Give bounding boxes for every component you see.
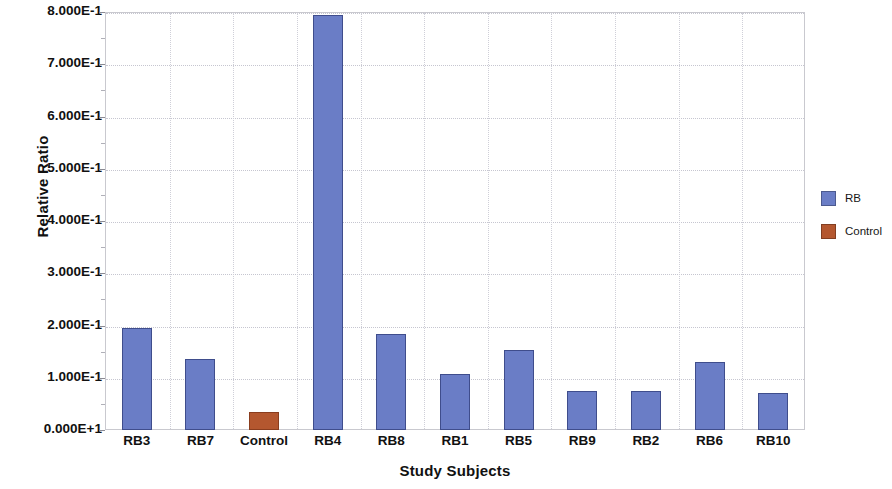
y-axis-minor-tick-mark <box>101 404 105 405</box>
gridline-vertical <box>361 13 362 429</box>
gridline-horizontal <box>106 274 804 275</box>
plot-area <box>105 12 805 430</box>
x-axis-tick-label: RB8 <box>360 433 424 448</box>
y-axis-tick-label: 2.000E-1 <box>14 317 102 332</box>
y-axis-tick-mark <box>99 12 105 13</box>
x-axis-tick-label: RB10 <box>741 433 805 448</box>
y-axis-tick-label: 3.000E-1 <box>14 264 102 279</box>
legend: RBControl <box>821 190 891 256</box>
legend-swatch-icon <box>821 224 836 239</box>
y-axis-tick-label: 8.000E-1 <box>14 3 102 18</box>
legend-swatch-icon <box>821 191 836 206</box>
gridline-vertical <box>424 13 425 429</box>
y-axis-tick-mark <box>99 273 105 274</box>
gridline-vertical <box>233 13 234 429</box>
y-axis-tick-label: 7.000E-1 <box>14 55 102 70</box>
x-axis-tick-labels: RB3RB7ControlRB4RB8RB1RB5RB9RB2RB6RB10 <box>105 433 805 455</box>
gridline-horizontal <box>106 379 804 380</box>
y-axis-minor-tick-mark <box>101 90 105 91</box>
x-axis-tick-label: RB4 <box>296 433 360 448</box>
y-axis-tick-mark <box>99 430 105 431</box>
x-axis-tick-label: RB3 <box>105 433 169 448</box>
y-axis-tick-labels: 0.000E+11.000E-12.000E-13.000E-14.000E-1… <box>14 0 102 489</box>
x-axis-tick-label: RB1 <box>423 433 487 448</box>
y-axis-tick-mark <box>99 378 105 379</box>
y-axis-minor-tick-mark <box>101 143 105 144</box>
legend-item[interactable]: RB <box>821 190 891 206</box>
y-axis-minor-tick-mark <box>101 247 105 248</box>
x-axis-title: Study Subjects <box>105 462 805 479</box>
y-axis-minor-tick-mark <box>101 299 105 300</box>
x-axis-tick-label: RB2 <box>614 433 678 448</box>
y-axis-tick-mark <box>99 326 105 327</box>
y-axis-tick-label: 1.000E-1 <box>14 369 102 384</box>
y-axis-tick-label: 5.000E-1 <box>14 160 102 175</box>
x-axis-tick-label: RB9 <box>550 433 614 448</box>
gridline-vertical <box>551 13 552 429</box>
gridline-horizontal <box>106 118 804 119</box>
bar-chart: Relative Ratio 0.000E+11.000E-12.000E-13… <box>0 0 892 489</box>
legend-item[interactable]: Control <box>821 223 891 239</box>
x-axis-tick-label: RB6 <box>678 433 742 448</box>
x-axis-tick-label: RB5 <box>487 433 551 448</box>
y-axis-tick-mark <box>99 64 105 65</box>
gridline-vertical <box>615 13 616 429</box>
y-axis-minor-tick-mark <box>101 352 105 353</box>
gridline-vertical <box>742 13 743 429</box>
gridline-horizontal <box>106 222 804 223</box>
gridline-vertical <box>679 13 680 429</box>
gridline-vertical <box>488 13 489 429</box>
legend-label: Control <box>845 225 882 237</box>
y-axis-tick-label: 0.000E+1 <box>14 421 102 436</box>
legend-label: RB <box>845 192 861 204</box>
gridline-vertical <box>297 13 298 429</box>
y-axis-tick-mark <box>99 169 105 170</box>
gridline-horizontal <box>106 170 804 171</box>
y-axis-tick-mark <box>99 117 105 118</box>
y-axis-minor-tick-mark <box>101 38 105 39</box>
gridline-vertical <box>170 13 171 429</box>
gridline-horizontal <box>106 327 804 328</box>
y-axis-tick-label: 4.000E-1 <box>14 212 102 227</box>
y-axis-tick-mark <box>99 221 105 222</box>
y-axis-minor-tick-mark <box>101 195 105 196</box>
x-axis-tick-label: RB7 <box>169 433 233 448</box>
y-axis-tick-label: 6.000E-1 <box>14 108 102 123</box>
gridline-horizontal <box>106 65 804 66</box>
gridline-horizontal <box>106 13 804 14</box>
x-axis-tick-label: Control <box>232 433 296 448</box>
